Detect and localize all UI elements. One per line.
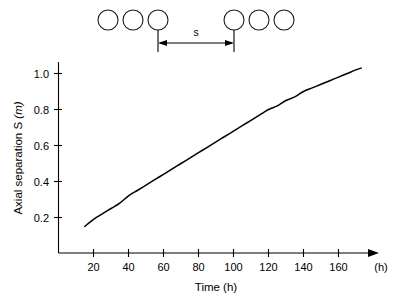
x-tick-label: 60 [157, 261, 169, 273]
dimension-annotation: s [158, 26, 234, 52]
y-axis-title-group: Axial separation S (m) [12, 101, 24, 214]
y-tick-label: 0.8 [34, 104, 49, 116]
x-axis-arrow-icon [368, 249, 379, 257]
particle-circle [274, 10, 294, 30]
x-tick-label: 140 [294, 261, 312, 273]
y-tick-label: 0.2 [34, 212, 49, 224]
y-axis-ticks: 1.0 0.8 0.6 0.4 0.2 [34, 68, 62, 224]
particle-circle [224, 10, 244, 30]
dimension-arrow-left-icon [158, 40, 167, 46]
x-tick-label: 40 [122, 261, 134, 273]
dimension-arrow-right-icon [225, 40, 234, 46]
particle-circle [148, 10, 168, 30]
x-tick-label: 120 [259, 261, 277, 273]
x-tick-label: 100 [224, 261, 242, 273]
y-tick-label: 1.0 [34, 68, 49, 80]
x-tick-label: 20 [87, 261, 99, 273]
chart-svg: s 1.0 0.8 0.6 0.4 0.2 [0, 0, 400, 304]
y-tick-label: 0.4 [34, 176, 49, 188]
x-tick-label: 80 [192, 261, 204, 273]
y-axis-title-unit: (m) [12, 101, 24, 118]
data-curve-axial-separation [85, 68, 362, 226]
axes [59, 62, 380, 257]
particle-circle [249, 10, 269, 30]
y-axis-title: Axial separation S (m) [12, 101, 24, 214]
y-tick-label: 0.6 [34, 140, 49, 152]
y-axis-title-main: Axial separation S [12, 119, 24, 215]
figure-container: s 1.0 0.8 0.6 0.4 0.2 [0, 0, 400, 304]
x-axis-unit-label: (h) [374, 261, 387, 273]
dimension-label: s [193, 26, 198, 38]
particle-circle [123, 10, 143, 30]
particle-circle [98, 10, 118, 30]
x-axis-title: Time (h) [195, 281, 238, 293]
x-tick-label: 160 [329, 261, 347, 273]
